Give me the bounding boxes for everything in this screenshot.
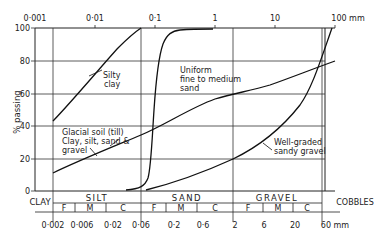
curve-silty-clay — [53, 28, 141, 121]
annotation-glacial-till: Glacial soil (till) — [62, 128, 124, 137]
sub-fine: F — [62, 204, 67, 213]
top-tick-label: 100 mm — [331, 14, 365, 23]
top-tick-label: 0·1 — [149, 14, 162, 23]
sub-coarse: C — [212, 204, 218, 213]
class-cobbles: COBBLES — [336, 198, 373, 207]
class-gravel: GRAVEL — [256, 193, 298, 203]
sub-medium: M — [275, 204, 282, 213]
bottom-tick-label: 0·006 — [71, 221, 94, 230]
top-tick-label: 10 — [270, 14, 280, 23]
horizontal-gridlines — [31, 28, 325, 191]
annotation-well-graded-gravel: Well-graded — [274, 138, 322, 147]
plot-frame — [35, 28, 335, 191]
y-axis-title: % passing — [12, 90, 22, 133]
bottom-tick-label: 6 — [261, 221, 266, 230]
bottom-tick-label: 0·6 — [197, 221, 210, 230]
sub-coarse: C — [120, 204, 126, 213]
top-tick-label: 0·001 — [24, 14, 47, 23]
class-clay: CLAY — [29, 197, 51, 207]
curve-well-graded-gravel — [146, 28, 332, 190]
top-tick-label: 1 — [212, 14, 217, 23]
bottom-axis-labels: 0·002 0·006 0·02 0·06 0·2 0·6 2 6 20 60 … — [42, 221, 350, 230]
bottom-tick-label: 0·06 — [132, 221, 150, 230]
class-sand: SAND — [172, 193, 202, 203]
soil-classification-bar — [35, 203, 340, 212]
y-tick-label: 80 — [20, 57, 30, 66]
annotation-glacial-till: Clay, silt, sand & — [62, 137, 129, 146]
y-tick-label: 20 — [20, 155, 30, 164]
bottom-tick-label: 0·002 — [42, 221, 65, 230]
bottom-tick-label: 0·2 — [168, 221, 181, 230]
sub-fine: F — [152, 204, 157, 213]
grading-curves — [53, 28, 335, 190]
y-tick-label: 100 — [15, 24, 30, 33]
sub-coarse: C — [304, 204, 310, 213]
y-tick-label: 0 — [25, 187, 30, 196]
annotation-silty-clay: Silty — [103, 71, 121, 80]
annotation-well-graded-gravel: sandy gravel — [274, 147, 326, 156]
annotation-uniform-sand: Uniform — [180, 66, 212, 75]
sub-medium: M — [178, 204, 185, 213]
sub-medium: M — [87, 204, 94, 213]
class-silt: SILT — [86, 193, 109, 203]
top-axis-labels: 0·001 0·01 0·1 1 10 100 mm — [24, 14, 365, 23]
sub-fine: F — [246, 204, 251, 213]
annotation-silty-clay: clay — [104, 80, 121, 89]
bottom-tick-label: 20 — [290, 221, 300, 230]
annotation-uniform-sand: sand — [180, 84, 199, 93]
top-tick-label: 0·01 — [86, 14, 104, 23]
curve-uniform-sand — [126, 29, 213, 190]
annotation-glacial-till: gravel — [62, 146, 87, 155]
annotation-uniform-sand: fine to medium — [180, 75, 241, 84]
bottom-tick-label: 0·02 — [104, 221, 122, 230]
bottom-tick-label: 60 mm — [321, 221, 350, 230]
particle-size-distribution-chart: 0·001 0·01 0·1 1 10 100 mm 100 80 60 40 … — [0, 0, 375, 239]
bottom-tick-label: 2 — [232, 221, 237, 230]
